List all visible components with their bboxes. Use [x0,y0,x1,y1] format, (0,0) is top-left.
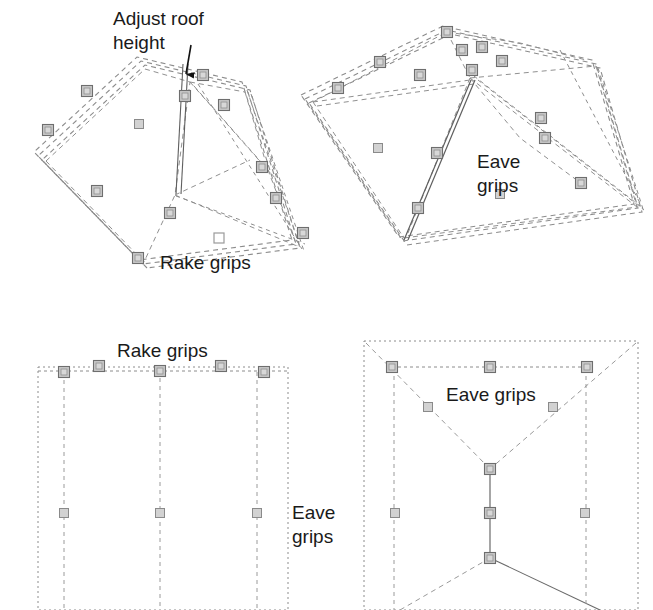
grip-ridge-n2[interactable] [457,45,468,56]
grip-eave-e3[interactable] [540,133,551,144]
grip-ridge-apex[interactable] [442,27,453,38]
grip-eave-e2[interactable] [536,113,547,124]
grip-ridge-upper[interactable] [180,91,191,102]
grip-corner-se2[interactable] [576,178,587,189]
grip-rake-plan-2[interactable] [94,361,105,372]
grip-rake-plan-3[interactable] [155,366,166,377]
grip-hip-plan-corner-nw[interactable] [387,362,398,373]
grip-rake-nw2[interactable] [375,57,386,68]
grip-eave-e[interactable] [257,162,268,173]
grip-hip-plan-ridge-mid[interactable] [485,508,496,519]
grip-ridge-ne2[interactable] [477,42,488,53]
rake-grips-label-isometric: Rake grips [160,252,251,273]
adjust-roof-height-label-line1: Adjust roof [113,8,205,29]
grip-hip-plan-hip-nw[interactable] [424,403,433,412]
grip-rake-s[interactable] [165,208,176,219]
grip-hip-plan-eave-w[interactable] [391,509,400,518]
grip-rake-ne2[interactable] [497,56,508,67]
grip-eave-se[interactable] [271,193,282,204]
grip-eave-plan-2[interactable] [156,509,165,518]
grip-eave-sw[interactable] [92,186,103,197]
grip-corner-se[interactable] [298,228,309,239]
eave-grips-label-isometric-line2: grips [477,175,518,196]
grip-hip-plan-corner-ne[interactable] [582,362,593,373]
roof-grips-diagram: Adjust roof height Rake grips [0,0,653,610]
grip-hip-plan-hip-ne[interactable] [549,403,558,412]
grip-hip-lower2[interactable] [413,203,424,214]
grip-hip-top2[interactable] [467,65,478,76]
grip-eave-n2[interactable] [415,70,426,81]
grip-face-center2[interactable] [374,144,383,153]
eave-grips-label-hip-plan: Eave grips [446,384,536,405]
grip-corner-s[interactable] [133,253,144,264]
grip-rake-ne[interactable] [219,100,230,111]
eave-grips-label-plan-line1: Eave [292,502,335,523]
grip-eave-plan-1[interactable] [60,509,69,518]
grip-face-center[interactable] [135,120,144,129]
grip-hip-plan-ridge-bottom[interactable] [485,553,496,564]
rake-grips-label-plan: Rake grips [117,340,208,361]
grip-hip-plan-eave-e[interactable] [581,509,590,518]
grip-corner-w[interactable] [43,125,54,136]
grip-rake-plan-1[interactable] [59,367,70,378]
grip-hip-plan-ridge-top[interactable] [485,464,496,475]
grip-hip-mid2[interactable] [432,148,443,159]
grip-rake-plan-5[interactable] [259,367,270,378]
grip-corner-nw2[interactable] [333,83,344,94]
grip-rake-nw[interactable] [82,86,93,97]
grip-rake-label-marker[interactable] [214,233,224,243]
grip-rake-plan-4[interactable] [216,361,227,372]
grip-ridge-top[interactable] [198,70,209,81]
adjust-roof-height-label-line2: height [113,32,165,53]
eave-grips-label-plan-line2: grips [292,526,333,547]
eave-grips-label-isometric-line1: Eave [477,151,520,172]
grip-eave-plan-3[interactable] [253,509,262,518]
grip-hip-plan-ridge-n[interactable] [485,362,496,373]
